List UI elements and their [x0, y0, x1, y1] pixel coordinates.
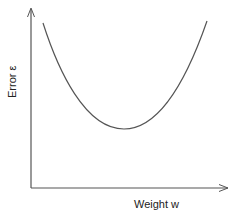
y-axis-label: Error ε	[6, 66, 18, 98]
y-axis	[28, 8, 35, 188]
x-axis-label: Weight w	[134, 198, 179, 210]
error-vs-weight-diagram	[0, 0, 238, 221]
x-axis	[31, 185, 228, 192]
error-curve	[43, 21, 207, 129]
